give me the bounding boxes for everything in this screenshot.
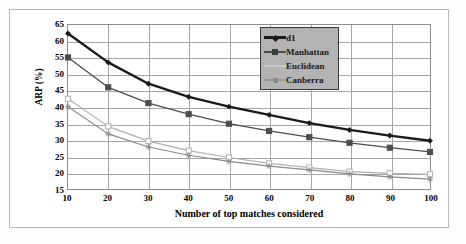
data-point-canberra <box>105 131 111 137</box>
data-point-manhattan <box>186 112 191 117</box>
y-tick-label: 40 <box>40 103 64 112</box>
data-point-canberra <box>145 144 151 150</box>
x-tick-label: 60 <box>249 193 289 203</box>
legend-label-d1: d1 <box>286 33 296 43</box>
x-axis-tick-labels: 102030405060708090100 <box>67 193 431 205</box>
legend-label-manhattan: Manhattan <box>286 47 329 57</box>
data-point-d1 <box>347 127 353 133</box>
x-tick-label: 40 <box>168 193 208 203</box>
legend: d1 Manhattan Euclidean Ca <box>260 27 339 90</box>
legend-item-manhattan[interactable]: Manhattan <box>264 45 336 59</box>
series-line-canberra <box>68 107 430 179</box>
data-point-manhattan <box>267 128 272 133</box>
data-point-d1 <box>226 104 232 110</box>
data-point-manhattan <box>65 55 70 60</box>
data-point-canberra <box>427 176 433 182</box>
data-point-manhattan <box>226 121 231 126</box>
x-tick-label: 50 <box>209 193 249 203</box>
legend-item-euclidean[interactable]: Euclidean <box>264 59 336 73</box>
x-tick-label: 90 <box>371 193 411 203</box>
legend-item-d1[interactable]: d1 <box>264 31 336 45</box>
data-point-euclidean <box>146 139 151 144</box>
x-axis-title: Number of top matches considered <box>67 208 431 219</box>
x-tick-label: 20 <box>87 193 127 203</box>
series-line-d1 <box>68 33 430 140</box>
data-point-euclidean <box>106 124 111 129</box>
legend-label-canberra: Canberra <box>286 75 324 85</box>
data-point-d1 <box>186 94 192 100</box>
figure: ARP (%) 6560555045403530252015 d1 Manhat… <box>0 0 466 244</box>
data-point-euclidean <box>427 172 432 177</box>
data-point-canberra <box>306 167 312 173</box>
plot-area: d1 Manhattan Euclidean Ca <box>67 24 431 190</box>
data-point-d1 <box>306 120 312 126</box>
x-tick-label: 100 <box>411 193 451 203</box>
data-point-manhattan <box>387 145 392 150</box>
x-tick-label: 80 <box>330 193 370 203</box>
x-tick-label: 10 <box>47 193 87 203</box>
y-tick-label: 35 <box>40 120 64 129</box>
x-tick-label: 30 <box>128 193 168 203</box>
data-point-canberra <box>347 171 353 177</box>
data-point-canberra <box>387 174 393 180</box>
legend-label-euclidean: Euclidean <box>286 61 325 71</box>
x-tick-label: 70 <box>290 193 330 203</box>
y-tick-label: 45 <box>40 86 64 95</box>
data-point-manhattan <box>427 149 432 154</box>
y-tick-label: 30 <box>40 136 64 145</box>
series-line-manhattan <box>68 58 430 152</box>
legend-item-canberra[interactable]: Canberra <box>264 73 336 87</box>
data-point-manhattan <box>106 85 111 90</box>
data-point-canberra <box>266 163 272 169</box>
data-point-d1 <box>266 112 272 118</box>
y-tick-label: 50 <box>40 70 64 79</box>
y-axis-tick-labels: 6560555045403530252015 <box>36 24 64 190</box>
data-point-canberra <box>226 158 232 164</box>
data-point-manhattan <box>347 140 352 145</box>
y-tick-label: 60 <box>40 37 64 46</box>
data-point-manhattan <box>307 135 312 140</box>
y-tick-label: 55 <box>40 53 64 62</box>
data-point-euclidean <box>65 96 70 101</box>
y-tick-label: 65 <box>40 20 64 29</box>
legend-marker-canberra <box>264 74 286 86</box>
data-point-manhattan <box>146 100 151 105</box>
legend-marker-d1 <box>264 32 286 44</box>
data-point-canberra <box>186 152 192 158</box>
y-tick-label: 25 <box>40 153 64 162</box>
legend-marker-euclidean <box>264 60 286 72</box>
y-tick-label: 20 <box>40 169 64 178</box>
data-point-d1 <box>387 133 393 139</box>
data-point-canberra <box>65 104 71 110</box>
legend-marker-manhattan <box>264 46 286 58</box>
series-layer <box>68 25 430 189</box>
